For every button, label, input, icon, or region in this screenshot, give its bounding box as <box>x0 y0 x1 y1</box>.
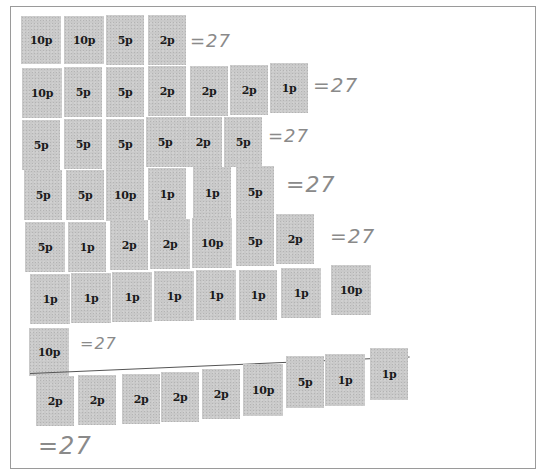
stamp: 5p <box>64 119 102 169</box>
stamp: 1p <box>281 268 321 318</box>
stamp: 10p <box>64 16 104 64</box>
stamp-value: 5p <box>118 138 133 151</box>
stamp: 5p <box>236 216 274 266</box>
stamp-value: 5p <box>78 189 93 202</box>
row-total: =27 <box>268 125 309 146</box>
stamp-value: 2p <box>160 85 175 98</box>
row-total: =27 <box>330 224 375 248</box>
stamp: 1p <box>193 167 231 219</box>
stamp-value: 2p <box>122 239 137 252</box>
stamp-value: 1p <box>382 368 397 381</box>
stamp: 1p <box>196 270 236 320</box>
stamp-value: 1p <box>160 188 175 201</box>
stamp-value: 10p <box>340 284 362 297</box>
stamp-value: 1p <box>294 287 309 300</box>
stamp: 10p <box>21 16 61 64</box>
stamp: 1p <box>154 271 194 321</box>
stamp-value: 1p <box>43 293 58 306</box>
stamp-value: 5p <box>248 186 263 199</box>
stamp-value: 2p <box>288 233 303 246</box>
stamp-value: 5p <box>158 136 173 149</box>
stamp-value: 2p <box>48 395 63 408</box>
stamp-value: 5p <box>76 86 91 99</box>
stamp: 1p <box>68 222 106 272</box>
stamp: 1p <box>30 274 70 324</box>
stamp: 2p <box>230 65 268 115</box>
stamp: 1p <box>325 354 365 406</box>
stamp: 2p <box>122 374 160 424</box>
row-total: =27 <box>38 432 92 460</box>
stamp-value: 1p <box>125 291 140 304</box>
stamp-value: 1p <box>251 289 266 302</box>
stamp-value: 1p <box>282 82 297 95</box>
stamp: 5p <box>146 117 184 167</box>
stamp-value: 2p <box>90 394 105 407</box>
stamp-value: 1p <box>338 374 353 387</box>
stamp: 2p <box>148 15 186 65</box>
stamp-value: 10p <box>201 237 223 250</box>
stamp-value: 5p <box>76 138 91 151</box>
stamp: 5p <box>236 166 274 218</box>
stamp: 5p <box>25 222 65 272</box>
stamp-value: 2p <box>242 84 257 97</box>
stamp: 5p <box>22 120 60 170</box>
stamp: 2p <box>184 117 222 167</box>
stamp-value: 2p <box>202 85 217 98</box>
stamp: 2p <box>150 219 190 269</box>
stamp-value: 10p <box>38 346 60 359</box>
stamp: 10p <box>243 364 283 416</box>
stamp-value: 5p <box>36 189 51 202</box>
stamp: 10p <box>192 218 232 268</box>
stamp: 5p <box>106 15 144 65</box>
stamp: 2p <box>161 372 199 422</box>
stamp-value: 5p <box>118 34 133 47</box>
stamp: 10p <box>331 265 371 315</box>
stamp: 2p <box>276 214 314 264</box>
stamp-value: 10p <box>30 34 52 47</box>
row-total: =27 <box>190 30 231 51</box>
stamp: 5p <box>64 67 102 117</box>
stamp-value: 5p <box>34 139 49 152</box>
stamp-value: 2p <box>214 388 229 401</box>
stamp: 2p <box>148 66 186 116</box>
stamp: 10p <box>29 328 69 376</box>
stamp: 1p <box>239 270 277 320</box>
stamp-value: 1p <box>84 292 99 305</box>
stamp: 1p <box>71 273 111 323</box>
stamp-value: 1p <box>80 241 95 254</box>
stamp-value: 2p <box>196 136 211 149</box>
row-total: =27 <box>313 73 358 97</box>
stamp: 5p <box>224 117 262 167</box>
stamp: 10p <box>106 169 144 221</box>
stamp-value: 10p <box>31 87 53 100</box>
stamp-value: 2p <box>163 238 178 251</box>
stamp-value: 5p <box>248 235 263 248</box>
stamp-value: 2p <box>134 393 149 406</box>
stamp: 5p <box>106 67 144 117</box>
stamp-value: 5p <box>236 136 251 149</box>
stamp-value: 1p <box>209 289 224 302</box>
stamp-value: 5p <box>118 86 133 99</box>
stamp: 2p <box>190 66 228 116</box>
stamp-value: 2p <box>173 391 188 404</box>
row-total: =27 <box>286 172 335 197</box>
stamp-value: 10p <box>252 384 274 397</box>
stamp: 10p <box>22 68 62 118</box>
row-total: =27 <box>80 334 117 353</box>
stamp: 1p <box>148 168 186 220</box>
stamp-value: 5p <box>298 376 313 389</box>
stamp-value: 10p <box>73 34 95 47</box>
stamp: 5p <box>286 356 324 408</box>
stamp-value: 5p <box>38 241 53 254</box>
stamp: 5p <box>106 119 144 169</box>
stamp: 2p <box>36 376 74 426</box>
stamp: 2p <box>78 375 116 425</box>
stamp-value: 1p <box>167 290 182 303</box>
stamp-value: 2p <box>160 34 175 47</box>
stamp-value: 10p <box>114 189 136 202</box>
stamp-value: 1p <box>205 187 220 200</box>
stamp: 2p <box>202 369 240 419</box>
stamp: 5p <box>66 170 104 220</box>
stamp: 1p <box>270 63 308 113</box>
stamp: 2p <box>110 220 148 270</box>
